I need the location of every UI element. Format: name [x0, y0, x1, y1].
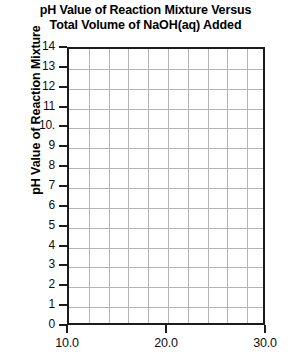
grid-line-horizontal — [69, 267, 263, 268]
y-axis-label: 1 — [0, 297, 55, 311]
x-axis-tick — [165, 325, 167, 333]
y-axis-tick — [59, 304, 67, 306]
grid-line-vertical — [227, 49, 228, 323]
grid-line-horizontal — [69, 89, 263, 90]
y-axis-label: 9 — [0, 138, 55, 152]
grid-lines — [69, 49, 263, 323]
y-axis-tick — [59, 225, 67, 227]
y-axis-label: 4 — [0, 238, 55, 252]
grid-line-horizontal — [69, 287, 263, 288]
x-axis-tick — [66, 325, 68, 333]
grid-line-horizontal — [69, 208, 263, 209]
y-axis-tick — [59, 284, 67, 286]
grid-line-vertical — [109, 49, 110, 323]
grid-line-vertical — [247, 49, 248, 323]
y-axis-label: 8 — [0, 158, 55, 172]
y-axis-tick — [59, 185, 67, 187]
y-axis-tick — [59, 106, 67, 108]
y-axis-label: 7 — [0, 178, 55, 192]
y-axis-label: 0 — [0, 317, 55, 331]
y-axis-tick — [59, 245, 67, 247]
y-axis-label: 14 — [0, 39, 55, 53]
y-axis-tick — [59, 86, 67, 88]
x-axis-tick — [264, 325, 266, 333]
y-axis-tick — [59, 66, 67, 68]
y-axis-label: 2 — [0, 277, 55, 291]
y-axis-label: 11 — [0, 99, 55, 113]
y-axis-label: 10. — [0, 118, 55, 132]
x-axis-label: 30.0 — [235, 336, 291, 350]
grid-line-horizontal — [69, 228, 263, 229]
x-axis-label: 10.0 — [37, 336, 97, 350]
plot-area — [67, 47, 265, 325]
chart-title-line-2: Total Volume of NaOH(aq) Added — [0, 18, 291, 33]
grid-line-vertical — [89, 49, 90, 323]
grid-line-horizontal — [69, 307, 263, 308]
grid-line-horizontal — [69, 69, 263, 70]
grid-line-horizontal — [69, 168, 263, 169]
y-axis-tick — [59, 165, 67, 167]
grid-line-vertical — [188, 49, 189, 323]
y-axis-tick — [59, 125, 67, 127]
grid-line-vertical — [128, 49, 129, 323]
grid-line-vertical — [148, 49, 149, 323]
y-axis-tick — [59, 145, 67, 147]
grid-line-horizontal — [69, 109, 263, 110]
grid-line-horizontal — [69, 248, 263, 249]
y-axis-tick — [59, 264, 67, 266]
y-axis-label: 6 — [0, 198, 55, 212]
y-axis-label: 13 — [0, 59, 55, 73]
chart-title-line-1: pH Value of Reaction Mixture Versus — [0, 3, 291, 18]
grid-line-horizontal — [69, 148, 263, 149]
y-axis-label: 3 — [0, 257, 55, 271]
y-axis-label: 5 — [0, 218, 55, 232]
y-axis-tick — [59, 46, 67, 48]
y-axis-tick — [59, 205, 67, 207]
grid-line-horizontal — [69, 128, 263, 129]
x-axis-label: 20.0 — [136, 336, 196, 350]
y-axis-label: 12 — [0, 79, 55, 93]
chart-title: pH Value of Reaction Mixture Versus Tota… — [0, 3, 291, 33]
grid-line-vertical — [168, 49, 169, 323]
grid-line-vertical — [208, 49, 209, 323]
grid-line-horizontal — [69, 188, 263, 189]
